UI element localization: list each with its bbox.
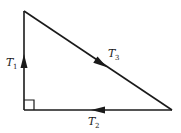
right-angle-marker [24,100,34,110]
arrow-up-icon [21,54,28,68]
force-triangle-diagram: T 1 T 3 T 2 [0,0,181,133]
label-t1: T 1 [6,56,17,71]
label-t3: T 3 [108,47,119,62]
arrow-left-icon [91,107,105,114]
svg-text:3: 3 [115,54,119,62]
label-t2: T 2 [88,115,99,130]
svg-text:2: 2 [95,122,99,130]
svg-text:1: 1 [13,63,17,71]
